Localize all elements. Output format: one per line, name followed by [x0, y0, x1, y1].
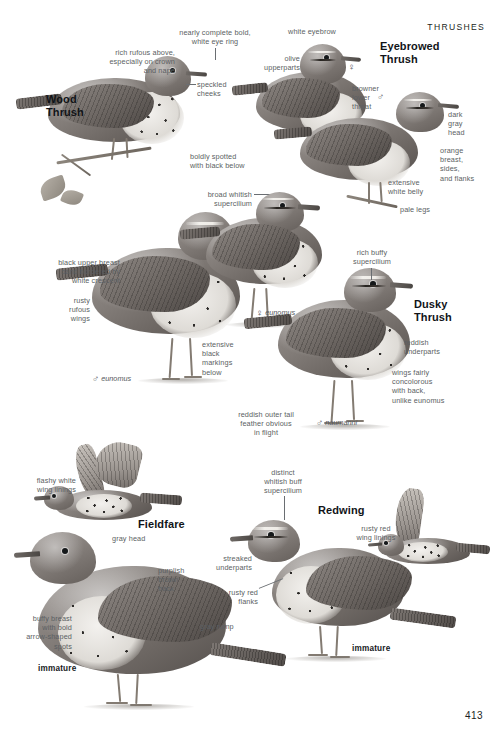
page-number: 413 — [465, 710, 483, 721]
label-dusky-wings-concolorous: wings fairly concolorous with back, unli… — [392, 368, 468, 405]
sex-mark-eyebrowed-female: ♀ — [348, 62, 355, 71]
label-eyebrowed-white-belly: extensive white belly — [388, 178, 450, 196]
subspecies-name: naumanni — [325, 418, 357, 427]
label-dusky-broad-supercilium: broad whitish supercilium — [170, 190, 252, 208]
section-header: THRUSHES — [427, 22, 485, 32]
age-mark-redwing-immature: immature — [352, 644, 390, 653]
male-symbol: ♂ — [92, 373, 99, 384]
label-wood-thrush-rufous: rich rufous above, especially on crown a… — [60, 48, 175, 76]
species-name-dusky-thrush: Dusky Thrush — [414, 298, 452, 324]
age-mark-fieldfare-immature: immature — [38, 664, 76, 673]
leader-line — [186, 84, 196, 85]
label-redwing-wing-linings: rusty red wing linings — [348, 524, 404, 542]
female-symbol: ♀ — [348, 61, 355, 72]
label-dusky-rusty-wings: rusty rufous wings — [42, 296, 90, 324]
leader-line — [371, 268, 372, 280]
male-symbol: ♂ — [316, 417, 323, 428]
label-fieldfare-gray-rump: gray rump — [200, 622, 256, 631]
label-fieldfare-wing-linings: flashy white wing linings — [10, 476, 76, 494]
label-redwing-supercilium: distinct whitish buff supercilium — [248, 468, 318, 496]
subspecies-name: eunomus — [101, 374, 131, 383]
species-name-eyebrowed-thrush: Eyebrowed Thrush — [380, 40, 440, 66]
sex-mark-eyebrowed-male: ♂ — [377, 92, 384, 101]
species-name-fieldfare: Fieldfare — [138, 518, 185, 531]
label-fieldfare-buffy-breast: buffy breast with bold arrow-shaped spot… — [6, 614, 72, 651]
subspecies-mark-dusky-male-naumanni: ♂ naumanni — [316, 418, 357, 427]
label-dusky-reddish-outer-tail: reddish outer tail feather obvious in fl… — [218, 410, 314, 438]
label-eyebrowed-pale-legs: pale legs — [400, 205, 450, 214]
label-redwing-rusty-flanks: rusty red flanks — [206, 588, 258, 606]
label-eyebrowed-dark-gray-head: dark gray head — [448, 110, 494, 138]
label-redwing-streaked-underparts: streaked underparts — [190, 554, 252, 572]
label-eyebrowed-olive-upperparts: olive upperparts — [248, 54, 300, 72]
label-eyebrowed-white-eyebrow: white eyebrow — [272, 27, 352, 36]
label-dusky-breast-band: black upper breast band bordered by whit… — [20, 258, 120, 286]
male-symbol: ♂ — [377, 91, 384, 102]
species-name-redwing: Redwing — [318, 504, 365, 517]
label-fieldfare-gray-head: gray head — [112, 534, 172, 543]
field-guide-page: THRUSHES Wood Thrush nearly complete bol… — [0, 0, 497, 739]
subspecies-mark-dusky-male-eunomus: ♂ eunomus — [92, 374, 131, 383]
label-wood-thrush-eye-ring: nearly complete bold, white eye ring — [160, 28, 270, 46]
label-dusky-black-markings: extensive black markings below — [202, 340, 258, 377]
label-eyebrowed-lower-throat: browner lower throat — [352, 84, 400, 112]
species-name-wood-thrush: Wood Thrush — [46, 93, 84, 119]
label-wood-thrush-spotted: boldly spotted with black below — [190, 152, 295, 170]
label-dusky-reddish-underparts: reddish underparts — [404, 338, 460, 356]
leader-line — [284, 496, 285, 520]
label-dusky-rich-buffy-supercilium: rich buffy supercilium — [336, 248, 408, 266]
leader-line — [215, 48, 216, 60]
